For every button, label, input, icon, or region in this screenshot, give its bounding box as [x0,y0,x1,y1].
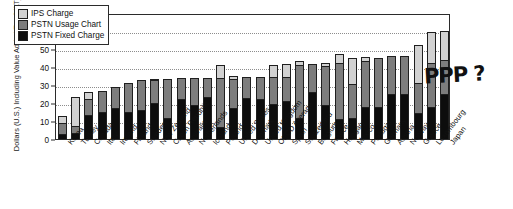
bar-segment-usage [400,56,409,94]
legend-item-usage: PSTN Usage Chart [18,19,104,30]
chart-legend: IPS Charge PSTN Usage Chart PSTN Fixed C… [14,5,109,45]
legend-swatch-ips-icon [18,9,28,19]
bar-segment-usage [414,83,423,113]
bar-segment-usage [321,66,330,105]
y-tick-label: 50 [29,46,49,55]
bar-segment-usage [256,77,265,99]
bar-segment-usage [190,78,199,105]
bar-segment-usage [282,77,291,101]
legend-item-ips: IPS Charge [18,8,104,19]
legend-label-fixed: PSTN Fixed Charge [31,31,104,40]
bar-segment-usage [203,78,212,97]
y-tick-label: 0 [29,136,49,145]
legend-item-fixed: PSTN Fixed Charge [18,30,104,41]
bar-segment-usage [374,58,383,107]
bar-korea [58,116,67,139]
bar-segment-usage [124,83,133,112]
legend-swatch-usage-icon [18,20,28,30]
legend-label-usage: PSTN Usage Chart [31,20,101,29]
chart-figure: Dollars (U.S.) Including Value Added Tax… [0,0,513,209]
bar-segment-ips [440,31,449,60]
x-axis-labels: KoreaTurkeyCanadaItalyIrelandFinlandSwed… [55,141,450,209]
bar-segment-ips [216,65,225,78]
bar-segment-usage [308,64,317,92]
bar-segment-usage [163,79,172,119]
bar-segment-usage [361,61,370,107]
bar-segment-usage [58,123,67,134]
bar-segment-ips [348,58,357,84]
bar-segment-usage [84,99,93,115]
bar-segment-usage [137,80,146,111]
bar-segment-usage [269,77,278,104]
bar-segment-usage [150,80,159,103]
y-tick-mark [51,122,55,123]
y-tick-label: 10 [29,118,49,127]
y-tick-label: 40 [29,64,49,73]
bar-segment-ips [427,32,436,64]
y-tick-mark [51,68,55,69]
bar-segment-ips [335,54,344,63]
bar-segment-usage [177,78,186,100]
legend-swatch-fixed-icon [18,31,28,41]
bar-segment-usage [111,87,120,108]
y-tick-label: 30 [29,82,49,91]
bar-segment-fixed [58,134,67,139]
y-tick-mark [51,86,55,87]
bar-segment-usage [98,91,107,112]
bar-segment-usage [387,56,396,94]
bar-segment-ips [414,45,423,83]
bar-segment-usage [335,63,344,119]
bar-segment-usage [229,79,238,108]
handwritten-annotation: PPP ? [423,61,485,88]
legend-label-ips: IPS Charge [31,9,73,18]
bar-segment-ips [58,116,67,123]
bar-segment-ips [71,97,80,127]
bar-segment-usage [348,84,357,118]
y-tick-mark [51,104,55,105]
bar-segment-ips [282,64,291,77]
y-tick-mark [51,50,55,51]
y-tick-label: 20 [29,100,49,109]
bar-segment-usage [242,77,251,98]
bar-segment-ips [269,65,278,77]
